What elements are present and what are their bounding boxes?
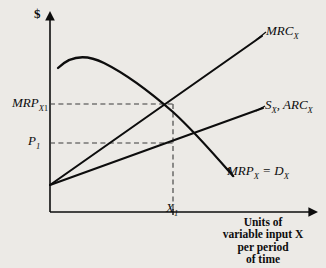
p1-main: P [28,133,36,148]
x1-axis-label: X1 [166,201,178,218]
mrp-demand-curve-label: MRPX = DX [227,164,289,181]
x-axis-caption-line-1: Units of [202,216,324,228]
mrp-d-eq: = D [259,163,284,178]
x1-sub: 1 [174,208,178,218]
mrc-label-sub: X [293,31,298,41]
x-axis-caption-line-4: of time [202,253,324,265]
mrc-label-main: MRC [266,23,293,38]
axes [50,19,310,212]
x-axis-caption-line-3: per period [202,241,324,253]
x-axis-caption: Units of variable input X per period of … [202,216,324,266]
mrc-label-leader [256,32,266,40]
leader-lines [228,32,266,177]
p1-sub: 1 [36,141,40,151]
supply-arc-curve-label: SX, ARCX [265,98,313,115]
x1-main: X [166,200,174,215]
guide-lines [50,104,174,211]
mrp-d-main: MRP [227,163,254,178]
p1-axis-label: P1 [28,134,40,151]
mrp-d-sub2: X [284,171,289,181]
mrp-x1-main: MRP [12,95,39,110]
supply-label-sep: , ARC [277,97,308,112]
supply-label-sub2: X [308,105,313,115]
mrp-x1-subsub: 1 [44,104,48,113]
x-axis-caption-line-2: variable input X [202,228,324,240]
mrc-curve-label: MRCX [266,24,299,41]
y-axis-currency-label: $ [34,7,41,21]
mrp-x1-axis-label: MRPX1 [12,96,48,113]
